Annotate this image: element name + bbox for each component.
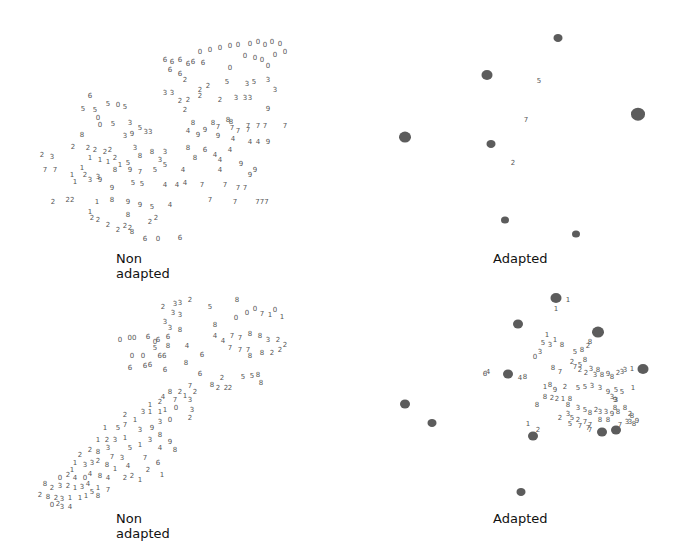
- digit-marker: 6: [163, 57, 167, 64]
- digit-marker: 1: [553, 337, 557, 344]
- digit-marker: 5: [81, 106, 85, 113]
- digit-marker: 7: [246, 127, 250, 134]
- digit-marker: 8: [235, 297, 239, 304]
- cluster-blob: [631, 108, 645, 121]
- digit-marker: 2: [218, 97, 222, 104]
- digit-marker: 3: [178, 312, 182, 319]
- digit-marker: 2: [90, 215, 94, 222]
- digit-marker: 3: [598, 409, 602, 416]
- digit-marker: 3: [625, 419, 629, 426]
- digit-marker: 0: [218, 45, 222, 52]
- digit-marker: 7: [236, 128, 240, 135]
- digit-marker: 2: [66, 472, 70, 479]
- digit-marker: 4: [186, 128, 190, 135]
- digit-marker: 1: [133, 417, 137, 424]
- digit-marker: 2: [113, 155, 117, 162]
- digit-marker: 5: [583, 384, 587, 391]
- digit-marker: 0: [236, 42, 240, 49]
- digit-marker: 4: [231, 136, 235, 143]
- digit-marker: 1: [123, 435, 127, 442]
- digit-marker: 2: [96, 217, 100, 224]
- digit-marker: 2: [283, 342, 287, 349]
- digit-marker: 8: [98, 473, 102, 480]
- cluster-blob: [513, 320, 523, 329]
- digit-marker: 4: [68, 504, 72, 511]
- digit-marker: 1: [160, 472, 164, 479]
- digit-marker: 4: [228, 147, 232, 154]
- digit-marker: 3: [168, 325, 172, 332]
- digit-marker: 7: [236, 185, 240, 192]
- digit-marker: 7: [216, 124, 220, 131]
- digit-marker: 9: [216, 133, 220, 140]
- digit-marker: 9: [150, 425, 154, 432]
- digit-marker: 6: [203, 147, 207, 154]
- digit-marker: 1: [106, 159, 110, 166]
- digit-marker: 3: [120, 455, 124, 462]
- digit-marker: 0: [50, 502, 54, 509]
- digit-marker: 3: [60, 504, 64, 511]
- digit-marker: 9: [168, 439, 172, 446]
- digit-marker: 9: [138, 202, 142, 209]
- digit-marker: 2: [183, 77, 187, 84]
- digit-marker: 0: [234, 315, 238, 322]
- digit-marker: 7: [138, 169, 142, 176]
- digit-marker: 7: [558, 369, 562, 376]
- digit-marker: 6: [146, 334, 150, 341]
- digit-marker: 0: [253, 306, 257, 313]
- digit-marker: 2: [123, 223, 127, 230]
- digit-marker: 9: [98, 177, 102, 184]
- digit-marker: 2: [38, 492, 42, 499]
- digit-marker: 2: [123, 475, 127, 482]
- digit-marker: 7: [256, 123, 260, 130]
- digit-marker: 2: [71, 144, 75, 151]
- digit-marker: 2: [103, 149, 107, 156]
- digit-marker: 6: [128, 365, 132, 372]
- digit-marker: 6: [201, 60, 205, 67]
- digit-marker: 6: [198, 371, 202, 378]
- digit-marker: 1: [78, 495, 82, 502]
- digit-marker: 1: [280, 314, 284, 321]
- digit-marker: 9: [610, 411, 614, 418]
- digit-marker: 3: [80, 484, 84, 491]
- digit-marker: 4: [256, 139, 260, 146]
- digit-marker: 8: [598, 417, 602, 424]
- digit-marker: 1: [73, 179, 77, 186]
- digit-marker: 8: [105, 462, 109, 469]
- digit-marker: 0: [141, 353, 145, 360]
- digit-marker: 2: [96, 458, 100, 465]
- digit-marker: 4: [86, 481, 90, 488]
- digit-marker: 4: [213, 152, 217, 159]
- digit-marker: 3: [88, 177, 92, 184]
- digit-marker: 0: [245, 310, 249, 317]
- digit-marker: 8: [193, 155, 197, 162]
- digit-marker: 3: [170, 90, 174, 97]
- digit-marker: 0: [174, 405, 178, 412]
- digit-marker: 8: [583, 357, 587, 364]
- digit-marker: 8: [43, 481, 47, 488]
- digit-marker: 33: [144, 129, 153, 136]
- digit-marker: 7: [243, 185, 247, 192]
- digit-marker: 6: [143, 363, 147, 370]
- digit-marker: 3: [90, 460, 94, 467]
- digit-marker: 3: [106, 445, 110, 452]
- digit-marker: 3: [163, 319, 167, 326]
- digit-marker: 8: [186, 145, 190, 152]
- digit-marker: 2: [105, 437, 109, 444]
- digit-marker: 5: [576, 385, 580, 392]
- digit-marker: 0: [270, 39, 274, 46]
- digit-marker: 1: [543, 384, 547, 391]
- digit-marker: 9: [130, 131, 134, 138]
- digit-marker: 8: [150, 149, 154, 156]
- digit-marker: 6: [166, 334, 170, 341]
- digit-marker: 0: [260, 57, 264, 64]
- digit-marker: 0: [228, 43, 232, 50]
- digit-marker: 8: [623, 405, 627, 412]
- digit-marker: 7: [260, 311, 264, 318]
- digit-marker: 0: [130, 353, 134, 360]
- digit-marker: 0: [283, 49, 287, 56]
- cluster-blob: [400, 400, 410, 409]
- digit-marker: 2: [66, 483, 70, 490]
- digit-marker: 3: [266, 337, 270, 344]
- digit-marker: 8: [248, 353, 252, 360]
- digit-marker: 0: [248, 41, 252, 48]
